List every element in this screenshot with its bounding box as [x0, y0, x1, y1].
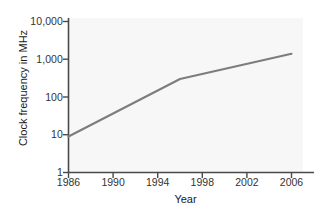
x-axis-title: Year	[68, 193, 303, 205]
x-tick-label: 1990	[89, 176, 137, 188]
x-tick-label: 2006	[268, 176, 316, 188]
data-series-clock-frequency	[69, 54, 292, 137]
x-tick-label: 1994	[134, 176, 182, 188]
x-tick-label: 1986	[45, 176, 93, 188]
y-axis-title: Clock frequency in MHz	[17, 3, 29, 173]
y-tick-label: 100	[3, 92, 63, 103]
y-tick-label: 10,000	[3, 16, 63, 27]
x-tick-label: 2002	[223, 176, 271, 188]
chart-figure: 10,000 1,000 100 10 1 1986 1990 1994 199…	[0, 0, 323, 214]
x-tick-label: 1998	[178, 176, 226, 188]
y-tick-label: 10	[3, 129, 63, 140]
x-axis-tick-labels: 1986 1990 1994 1998 2002 2006	[0, 176, 323, 192]
y-tick-label: 1,000	[3, 54, 63, 65]
